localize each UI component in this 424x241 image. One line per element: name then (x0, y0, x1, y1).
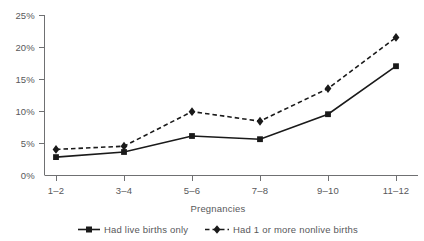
legend-swatch-live-births (78, 227, 100, 233)
chart-container: 25% 20% 15% 10% 5% 0% 1–2 3–4 5–6 7–8 9–… (0, 0, 424, 241)
line-chart: 25% 20% 15% 10% 5% 0% 1–2 3–4 5–6 7–8 9–… (0, 0, 424, 241)
data-point (53, 145, 60, 154)
data-point (325, 111, 331, 117)
y-tick-label-10: 10% (15, 106, 35, 117)
legend-label-live-births: Had live births only (104, 224, 188, 235)
data-point (325, 84, 332, 93)
x-tick-label-5-6: 5–6 (184, 185, 200, 196)
legend-swatch-nonlive-births (205, 225, 229, 233)
y-tick-label-5: 5% (21, 138, 35, 149)
data-point (393, 63, 399, 69)
data-point (257, 136, 263, 142)
series-layer (53, 33, 400, 160)
x-tick-label-11-12: 11–12 (383, 185, 410, 196)
x-tick-label-1-2: 1–2 (48, 185, 64, 196)
legend-label-nonlive-births: Had 1 or more nonlive births (233, 224, 358, 235)
series-line-1 (56, 37, 396, 149)
x-tick-label-9-10: 9–10 (317, 185, 339, 196)
x-axis-title: Pregnancies (190, 203, 245, 214)
data-point (257, 117, 264, 126)
y-tick-label-20: 20% (15, 42, 35, 53)
data-point (53, 154, 59, 160)
y-tick-label-15: 15% (15, 74, 35, 85)
y-tick-label-25: 25% (15, 10, 35, 21)
data-point (393, 33, 400, 42)
x-tick-label-7-8: 7–8 (252, 185, 268, 196)
x-tick-label-3-4: 3–4 (116, 185, 132, 196)
data-point (189, 107, 196, 116)
y-tick-label-0: 0% (21, 170, 35, 181)
y-axis-ticks (39, 16, 45, 144)
data-point (189, 133, 195, 139)
series-line-0 (56, 66, 396, 157)
chart-legend: Had live births only Had 1 or more nonli… (78, 224, 358, 235)
